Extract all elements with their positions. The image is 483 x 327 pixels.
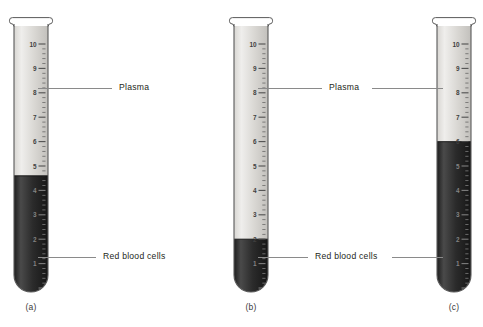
svg-text:1: 1 [253,260,257,267]
svg-text:3: 3 [253,211,257,218]
svg-text:7: 7 [456,114,460,121]
leader-line-rbc-bc-right [392,257,443,258]
svg-text:8: 8 [456,89,460,96]
leader-line-plasma-bc-right [372,88,443,89]
svg-text:4: 4 [33,187,37,194]
svg-text:6: 6 [456,138,460,145]
svg-text:10: 10 [249,41,257,48]
svg-text:5: 5 [253,163,257,170]
callout-label-plasma-bc: Plasma [326,82,362,92]
test-tube-c: 10987654321 [429,12,479,306]
svg-text:1: 1 [456,260,460,267]
svg-text:2: 2 [253,236,257,243]
svg-text:5: 5 [33,163,37,170]
tube-caption-a: (a) [4,302,58,312]
hematocrit-figure: 10987654321(a)10987654321(b)10987654321(… [0,0,483,327]
svg-text:6: 6 [253,138,257,145]
callout-label-rbc-bc: Red blood cells [312,251,381,261]
svg-text:4: 4 [456,187,460,194]
leader-line-rbc-bc [258,257,308,258]
svg-text:8: 8 [33,89,37,96]
svg-text:7: 7 [253,114,257,121]
leader-line-plasma-a [38,88,112,89]
svg-text:2: 2 [456,236,460,243]
svg-text:9: 9 [456,65,460,72]
svg-text:8: 8 [253,89,257,96]
tube-caption-b: (b) [224,302,278,312]
test-tube-a: 10987654321 [6,12,56,306]
leader-line-rbc-a [38,257,96,258]
tube-caption-c: (c) [427,302,481,312]
svg-text:9: 9 [253,65,257,72]
svg-text:10: 10 [452,41,460,48]
svg-text:5: 5 [456,163,460,170]
svg-text:4: 4 [253,187,257,194]
svg-text:3: 3 [33,211,37,218]
svg-text:9: 9 [33,65,37,72]
leader-line-plasma-bc [258,88,322,89]
svg-text:10: 10 [29,41,37,48]
svg-text:6: 6 [33,138,37,145]
svg-text:7: 7 [33,114,37,121]
svg-text:3: 3 [456,211,460,218]
callout-label-plasma-a: Plasma [116,82,152,92]
test-tube-b: 10987654321 [226,12,276,306]
svg-text:2: 2 [33,236,37,243]
svg-text:1: 1 [33,260,37,267]
callout-label-rbc-a: Red blood cells [100,251,169,261]
